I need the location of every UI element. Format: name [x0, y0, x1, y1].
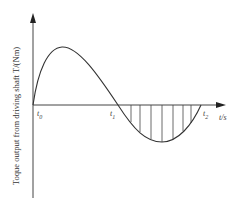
tick-t0: t0 — [37, 109, 42, 120]
y-axis-arrow-icon — [30, 13, 36, 23]
x-axis-label: t/s — [219, 113, 227, 122]
torque-chart — [0, 0, 242, 207]
tick-t1: t1 — [110, 109, 115, 120]
hatch-region — [131, 105, 191, 142]
y-axis-label: Toque output from driving shaft T/(Nm) — [11, 47, 21, 185]
torque-curve — [33, 47, 201, 142]
tick-t2: t2 — [203, 109, 208, 120]
x-axis-arrow-icon — [216, 102, 226, 108]
